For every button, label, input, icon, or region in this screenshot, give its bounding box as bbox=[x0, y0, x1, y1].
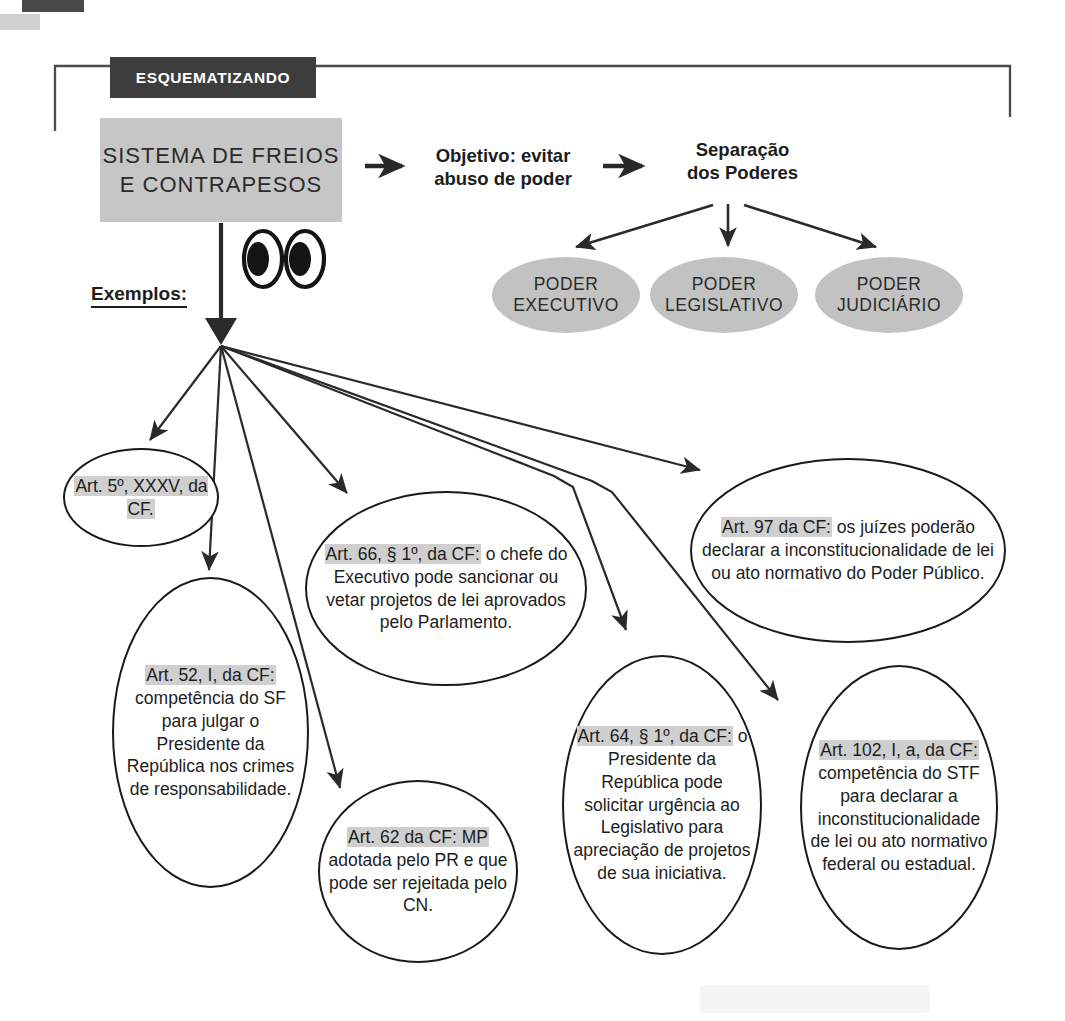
power-judiciario-line-1: PODER bbox=[857, 274, 922, 295]
example-art-62-rest: adotada pelo PR e que pode ser rejeitada… bbox=[328, 850, 507, 916]
example-art-66-text: Art. 66, § 1º, da CF: o chefe do Executi… bbox=[307, 543, 585, 634]
system-title-line-2: E CONTRAPESOS bbox=[120, 170, 322, 199]
example-art-64-rest: o Presidente da República pode solicitar… bbox=[573, 726, 750, 883]
system-title-line-1: SISTEMA DE FREIOS bbox=[102, 141, 339, 170]
objective-label: Objetivo: evitar abuso de poder bbox=[418, 144, 588, 191]
examples-label: Exemplos: bbox=[91, 283, 187, 308]
example-ellipse-art-97: Art. 97 da CF: os juízes poderão declara… bbox=[690, 458, 1006, 643]
example-art-102-rest: competência do STF para declarar a incon… bbox=[810, 763, 987, 874]
example-ellipse-art-52: Art. 52, I, da CF: competência do SF par… bbox=[112, 577, 309, 888]
diagram-canvas: ESQUEMATIZANDO SISTEMA DE FREIOS E CONTR… bbox=[0, 0, 1065, 1021]
power-legislativo-line-1: PODER bbox=[692, 274, 757, 295]
example-ellipse-art-62: Art. 62 da CF: MP adotada pelo PR e que … bbox=[318, 780, 518, 963]
scan-artifact-dark-bar bbox=[22, 0, 84, 12]
example-art-64-text: Art. 64, § 1º, da CF: o Presidente da Re… bbox=[564, 725, 760, 884]
example-art-97-text: Art. 97 da CF: os juízes poderão declara… bbox=[692, 516, 1004, 584]
fan-arrow-art-52 bbox=[209, 346, 221, 570]
power-judiciario-line-2: JUDICIÁRIO bbox=[837, 295, 941, 316]
example-art-52-highlight: Art. 52, I, da CF: bbox=[145, 665, 275, 685]
separation-line-2: dos Poderes bbox=[655, 161, 830, 184]
objective-line-2: abuso de poder bbox=[418, 167, 588, 190]
powers-arrows bbox=[576, 204, 876, 247]
example-art-52-text: Art. 52, I, da CF: competência do SF par… bbox=[114, 664, 307, 801]
example-art-5-text: Art. 5º, XXXV, da CF. bbox=[65, 475, 217, 521]
fan-arrow-art-66 bbox=[221, 346, 347, 493]
example-art-5-highlight: Art. 5º, XXXV, da CF. bbox=[74, 476, 207, 519]
example-art-64-highlight: Art. 64, § 1º, da CF: bbox=[577, 726, 733, 746]
power-ellipse-executivo: PODER EXECUTIVO bbox=[492, 257, 640, 333]
example-art-102-text: Art. 102, I, a, da CF: competência do ST… bbox=[802, 739, 996, 876]
power-ellipse-legislativo: PODER LEGISLATIVO bbox=[650, 257, 798, 333]
fan-arrow-art-97 bbox=[221, 346, 700, 470]
eyes-icon bbox=[240, 228, 328, 290]
example-art-97-highlight: Art. 97 da CF: bbox=[721, 517, 832, 537]
example-art-102-highlight: Art. 102, I, a, da CF: bbox=[819, 740, 979, 760]
trunk-arrow bbox=[205, 223, 237, 345]
example-art-62-text: Art. 62 da CF: MP adotada pelo PR e que … bbox=[320, 826, 516, 917]
separation-label: Separação dos Poderes bbox=[655, 138, 830, 185]
esquematizando-band: ESQUEMATIZANDO bbox=[110, 57, 316, 98]
example-ellipse-art-66: Art. 66, § 1º, da CF: o chefe do Executi… bbox=[305, 491, 587, 686]
scan-artifact-gray-bar bbox=[0, 14, 40, 30]
example-art-66-highlight: Art. 66, § 1º, da CF: bbox=[325, 544, 481, 564]
example-ellipse-art-5: Art. 5º, XXXV, da CF. bbox=[63, 448, 219, 547]
fan-arrow-art-5 bbox=[150, 346, 221, 440]
system-title-box: SISTEMA DE FREIOS E CONTRAPESOS bbox=[100, 118, 342, 222]
example-art-52-rest: competência do SF para julgar o Presiden… bbox=[127, 688, 294, 799]
power-executivo-line-1: PODER bbox=[534, 274, 599, 295]
example-ellipse-art-64: Art. 64, § 1º, da CF: o Presidente da Re… bbox=[562, 655, 762, 955]
power-ellipse-judiciario: PODER JUDICIÁRIO bbox=[815, 257, 963, 333]
power-legislativo-line-2: LEGISLATIVO bbox=[665, 295, 783, 316]
objective-line-1: Objetivo: evitar bbox=[418, 144, 588, 167]
separation-line-1: Separação bbox=[655, 138, 830, 161]
power-executivo-line-2: EXECUTIVO bbox=[513, 295, 619, 316]
example-art-62-highlight: Art. 62 da CF: MP bbox=[347, 827, 489, 847]
example-ellipse-art-102: Art. 102, I, a, da CF: competência do ST… bbox=[800, 665, 998, 950]
scan-artifact-faint-text bbox=[700, 985, 930, 1013]
